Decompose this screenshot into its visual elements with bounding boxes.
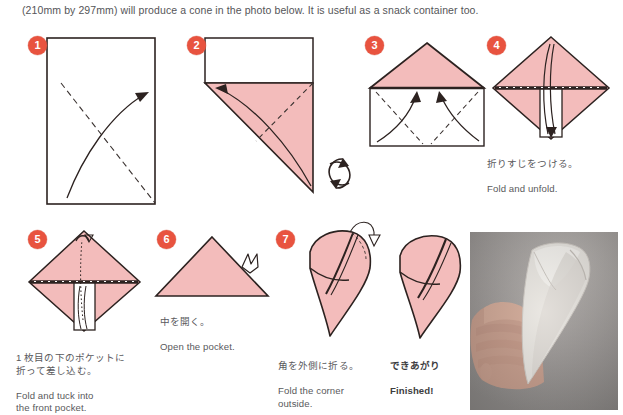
step-2-badge: 2 (187, 36, 206, 55)
finished-caption-en: Finished! (390, 385, 480, 397)
step-4-caption-en: Fold and unfold. (487, 183, 612, 195)
step-7-caption: 角を外側に折る。 Fold the corner outside. (278, 348, 388, 415)
finished-caption: できあがり Finished! (390, 348, 480, 410)
step-1-badge: 1 (28, 36, 47, 55)
step-4-caption-jp: 折りすじをつける。 (487, 158, 612, 170)
step-7-caption-en: Fold the corner outside. (278, 385, 388, 410)
step-1-figure (45, 36, 165, 208)
photo-vignette (470, 232, 618, 410)
step-5-caption-en: Fold and tuck into the front pocket. (16, 390, 151, 415)
paper-rectangle (47, 38, 155, 204)
rotate-icon (329, 158, 350, 189)
step-7-caption-jp: 角を外側に折る。 (278, 360, 388, 372)
step-6-caption: 中を開く。 Open the pocket. (160, 304, 290, 366)
step-3-figure (367, 40, 489, 155)
step-5-caption: 1 枚目の下のポケットに 折って差し込む。 Fold and tuck into… (16, 340, 151, 415)
paper-cone-body (310, 231, 370, 336)
step-5-badge: 5 (28, 230, 47, 249)
paper-cone-body (400, 236, 460, 338)
paper-white-rectangle (370, 88, 484, 146)
step-7-figure (296, 224, 386, 340)
step-5-caption-jp: 1 枚目の下のポケットに 折って差し込む。 (16, 352, 151, 377)
result-photo (470, 232, 618, 410)
paper-pink-triangle (370, 43, 484, 88)
step-6-badge: 6 (157, 230, 176, 249)
finished-caption-jp: できあがり (390, 360, 480, 372)
finished-figure (388, 230, 470, 342)
step-3-badge: 3 (365, 36, 384, 55)
paper-white-strip (205, 38, 313, 83)
intro-text: (210mm by 297mm) will produce a cone in … (22, 3, 612, 17)
step-4-badge: 4 (487, 36, 506, 55)
step-2-figure (202, 36, 352, 208)
step-6-caption-jp: 中を開く。 (160, 316, 290, 328)
step-7-badge: 7 (276, 230, 295, 249)
fold-over-arrowhead (369, 235, 380, 246)
step-4-caption: 折りすじをつける。 Fold and unfold. (487, 146, 612, 208)
step-6-caption-en: Open the pocket. (160, 341, 290, 353)
step-4-figure (489, 34, 613, 146)
